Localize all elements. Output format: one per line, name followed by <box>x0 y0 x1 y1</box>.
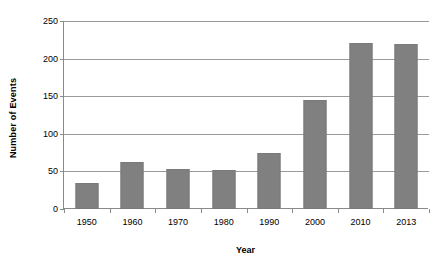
bar-group <box>247 21 293 209</box>
x-tick-label: 2010 <box>351 217 371 227</box>
x-tick-label: 1960 <box>122 217 142 227</box>
y-tick-label: 200 <box>43 54 58 64</box>
bar <box>258 153 281 209</box>
bar-group <box>64 21 110 209</box>
bar-series <box>64 21 429 209</box>
bar-group <box>338 21 384 209</box>
bar-group <box>155 21 201 209</box>
x-tick-mark <box>429 209 430 213</box>
bar <box>349 43 372 209</box>
bar-group <box>201 21 247 209</box>
bar <box>395 44 418 209</box>
y-axis-title-label: Number of Events <box>8 78 18 158</box>
bar <box>75 183 98 209</box>
bar <box>212 170 235 209</box>
x-tick-mark <box>155 209 156 213</box>
x-tick-mark <box>383 209 384 213</box>
x-tick-label: 1980 <box>214 217 234 227</box>
y-tick-label: 0 <box>53 204 58 214</box>
y-tick-label: 150 <box>43 91 58 101</box>
bar-group <box>292 21 338 209</box>
x-tick-label: 1970 <box>168 217 188 227</box>
x-tick-mark <box>64 209 65 213</box>
x-tick-mark <box>247 209 248 213</box>
x-tick-mark <box>338 209 339 213</box>
bar-group <box>383 21 429 209</box>
bar-chart: Number of Events 050100150200250 1950196… <box>0 0 437 268</box>
x-tick-label: 1990 <box>259 217 279 227</box>
x-tick-label: 2013 <box>396 217 416 227</box>
plot-area: 050100150200250 195019601970198019902000… <box>63 21 428 209</box>
y-tick-label: 50 <box>48 166 58 176</box>
x-tick-mark <box>201 209 202 213</box>
y-tick-label: 250 <box>43 16 58 26</box>
x-tick-label: 2000 <box>305 217 325 227</box>
bar <box>303 100 326 209</box>
bar <box>121 162 144 209</box>
bar-group <box>110 21 156 209</box>
x-tick-label: 1950 <box>77 217 97 227</box>
x-tick-mark <box>292 209 293 213</box>
bar <box>167 169 190 209</box>
x-axis-title: Year <box>63 245 428 255</box>
y-tick-label: 100 <box>43 129 58 139</box>
y-axis-title: Number of Events <box>4 58 22 178</box>
x-tick-mark <box>110 209 111 213</box>
